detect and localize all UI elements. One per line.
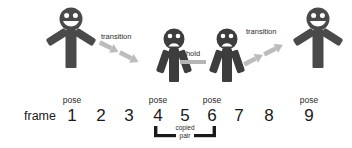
character-frame-9	[285, 6, 351, 72]
transition-label-left: transition	[101, 33, 131, 41]
frame-number-9: 9	[294, 107, 324, 124]
animation-timeline-diagram: transition hold	[0, 0, 352, 148]
pose-label-frame-9: pose	[294, 96, 324, 105]
transition-arrows-left	[100, 36, 152, 70]
pose-label-frame-6: pose	[197, 96, 227, 105]
transition-label-right: transition	[246, 28, 276, 36]
pose-label-frame-4: pose	[143, 96, 173, 105]
frame-number-2: 2	[86, 107, 116, 124]
frame-number-3: 3	[114, 107, 144, 124]
copied-pair-label-line2: pair	[168, 132, 202, 140]
frame-number-8: 8	[254, 107, 284, 124]
frame-number-1: 1	[57, 107, 87, 124]
frame-row-label: frame	[24, 110, 56, 123]
frame-number-6: 6	[197, 107, 227, 124]
pose-label-frame-1: pose	[57, 96, 87, 105]
character-frame-1	[38, 6, 104, 72]
frame-number-4: 4	[143, 107, 173, 124]
frame-number-7: 7	[224, 107, 254, 124]
copied-pair-label-line1: copied	[168, 124, 202, 132]
frame-number-5: 5	[170, 107, 200, 124]
